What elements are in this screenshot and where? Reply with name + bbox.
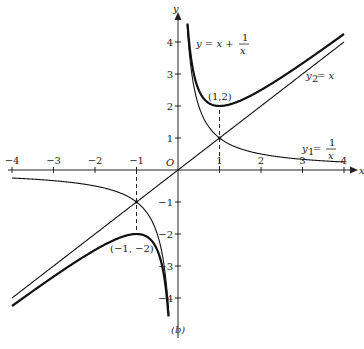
annotation-local-min: (1,2)	[208, 91, 232, 102]
svg-text:=: =	[313, 143, 321, 154]
intersection-point	[135, 200, 138, 203]
svg-text:1: 1	[329, 137, 335, 148]
annotation-local-max: (−1, −2)	[110, 243, 154, 254]
svg-text:x: x	[240, 45, 246, 56]
svg-text:y: y	[301, 143, 308, 154]
svg-text:= x: = x	[317, 70, 335, 81]
y-tick-label: −1	[158, 197, 173, 208]
x-axis-arrow-icon	[350, 167, 358, 174]
y-tick-label: 4	[167, 37, 173, 48]
svg-text:x: x	[328, 150, 334, 161]
y-tick-label: 1	[167, 133, 173, 144]
label-sum-curve: y = x + 1 x	[195, 32, 249, 56]
x-tick-label: −3	[46, 155, 61, 166]
y-tick-label: 3	[167, 69, 173, 80]
function-graph: −4−3−2−11234−4−3−2−11234 x y O y = x + 1…	[0, 0, 364, 349]
y-tick-label: −2	[158, 229, 173, 240]
x-tick-label: −2	[88, 155, 103, 166]
x-tick-label: 3	[299, 155, 305, 166]
x-tick-label: 2	[258, 155, 264, 166]
svg-text:1: 1	[242, 32, 248, 43]
svg-text:y = x +: y = x +	[195, 38, 234, 49]
y-tick-label: 2	[167, 101, 173, 112]
x-axis-label: x	[359, 165, 364, 176]
x-tick-label: −1	[129, 155, 144, 166]
svg-text:y: y	[305, 70, 312, 81]
x-tick-label: 4	[341, 155, 347, 166]
figure-caption: (b)	[171, 324, 185, 335]
origin-label: O	[166, 157, 174, 168]
intersection-point	[218, 136, 221, 139]
label-line: y 2 = x	[305, 70, 335, 84]
label-hyperbola: y 1 = 1 x	[301, 137, 336, 161]
x-tick-label: −4	[5, 155, 20, 166]
y-axis-label: y	[172, 3, 179, 14]
